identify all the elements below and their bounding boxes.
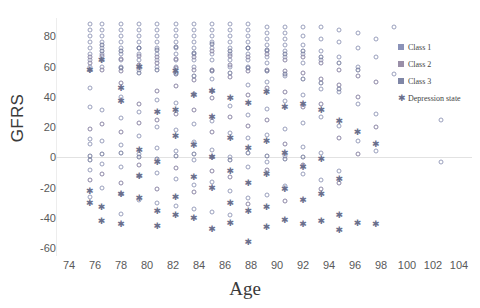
data-point-circle bbox=[337, 28, 342, 33]
legend-item[interactable]: Class 3 bbox=[398, 75, 480, 87]
data-point-star: ✱ bbox=[244, 144, 253, 153]
data-point-circle bbox=[173, 84, 178, 89]
legend-item[interactable]: Class 1 bbox=[398, 41, 480, 53]
data-point-circle bbox=[210, 96, 215, 101]
data-point-circle bbox=[87, 46, 92, 51]
data-point-star: ✱ bbox=[317, 217, 326, 226]
data-point-circle bbox=[264, 193, 269, 198]
data-point-circle bbox=[137, 34, 142, 39]
data-point-circle bbox=[373, 79, 378, 84]
data-point-circle bbox=[191, 78, 196, 83]
data-point-circle bbox=[173, 56, 178, 61]
data-point-circle bbox=[99, 152, 104, 157]
scatter-plot-figure: ✱✱✱✱✱✱✱✱✱✱✱✱✱✱✱✱✱✱✱✱✱✱✱✱✱✱✱✱✱✱✱✱✱✱✱✱✱✱✱✱… bbox=[0, 0, 480, 308]
data-point-circle bbox=[392, 72, 397, 77]
data-point-circle bbox=[191, 55, 196, 60]
data-point-star: ✱ bbox=[171, 106, 180, 115]
data-point-circle bbox=[87, 178, 92, 183]
data-point-circle bbox=[282, 58, 287, 63]
data-point-star: ✱ bbox=[280, 215, 289, 224]
data-point-circle bbox=[438, 117, 443, 122]
y-tick-label: -20 bbox=[22, 182, 56, 194]
data-point-circle bbox=[246, 123, 251, 128]
data-point-star: ✱ bbox=[299, 195, 308, 204]
legend-label: Class 2 bbox=[408, 60, 431, 69]
data-point-circle bbox=[438, 160, 443, 165]
data-point-circle bbox=[119, 34, 124, 39]
y-axis-title: GFRS bbox=[8, 78, 28, 158]
data-point-circle bbox=[282, 37, 287, 42]
data-point-star: ✱ bbox=[371, 139, 380, 148]
data-point-circle bbox=[87, 141, 92, 146]
data-point-circle bbox=[337, 61, 342, 66]
legend-item[interactable]: Class 2 bbox=[398, 58, 480, 70]
data-point-circle bbox=[210, 129, 215, 134]
data-point-circle bbox=[137, 134, 142, 139]
data-point-circle bbox=[355, 102, 360, 107]
data-point-circle bbox=[99, 122, 104, 127]
data-point-star: ✱ bbox=[244, 238, 253, 247]
data-point-star: ✱ bbox=[244, 206, 253, 215]
data-point-circle bbox=[355, 152, 360, 157]
data-point-star: ✱ bbox=[317, 106, 326, 115]
data-point-star: ✱ bbox=[189, 141, 198, 150]
data-point-circle bbox=[264, 25, 269, 30]
data-point-circle bbox=[99, 161, 104, 166]
data-point-circle bbox=[99, 138, 104, 143]
y-tick-label: -60 bbox=[22, 242, 56, 254]
data-point-circle bbox=[87, 85, 92, 90]
data-point-circle bbox=[119, 150, 124, 155]
data-point-circle bbox=[191, 28, 196, 33]
legend-label: Depression state bbox=[408, 94, 461, 103]
data-point-circle bbox=[319, 37, 324, 42]
data-point-circle bbox=[301, 43, 306, 48]
legend-star-icon: ✱ bbox=[398, 94, 404, 102]
data-point-circle bbox=[173, 44, 178, 49]
data-point-star: ✱ bbox=[189, 173, 198, 182]
data-point-star: ✱ bbox=[353, 218, 362, 227]
data-point-circle bbox=[99, 28, 104, 33]
data-point-circle bbox=[301, 172, 306, 177]
data-point-star: ✱ bbox=[280, 185, 289, 194]
data-point-circle bbox=[301, 70, 306, 75]
data-point-star: ✱ bbox=[317, 154, 326, 163]
data-point-circle bbox=[264, 61, 269, 66]
data-point-circle bbox=[301, 155, 306, 160]
data-point-star: ✱ bbox=[189, 214, 198, 223]
x-tick-label: 104 bbox=[444, 259, 474, 271]
data-point-star: ✱ bbox=[262, 203, 271, 212]
data-point-circle bbox=[228, 62, 233, 67]
legend: Class 1Class 2Class 3✱Depression state bbox=[398, 41, 480, 109]
legend-item[interactable]: ✱Depression state bbox=[398, 92, 480, 104]
data-point-circle bbox=[191, 122, 196, 127]
data-point-circle bbox=[137, 53, 142, 58]
data-point-circle bbox=[301, 144, 306, 149]
data-point-circle bbox=[137, 163, 142, 168]
data-point-circle bbox=[319, 55, 324, 60]
data-point-circle bbox=[301, 55, 306, 60]
data-point-circle bbox=[355, 31, 360, 36]
data-point-circle bbox=[155, 28, 160, 33]
data-point-circle bbox=[228, 188, 233, 193]
data-point-circle bbox=[228, 49, 233, 54]
data-point-circle bbox=[228, 75, 233, 80]
data-point-circle bbox=[355, 138, 360, 143]
data-point-star: ✱ bbox=[226, 167, 235, 176]
data-point-circle bbox=[155, 22, 160, 27]
data-point-circle bbox=[210, 22, 215, 27]
data-point-circle bbox=[155, 47, 160, 52]
data-point-circle bbox=[228, 70, 233, 75]
data-point-circle bbox=[210, 28, 215, 33]
data-point-star: ✱ bbox=[97, 217, 106, 226]
data-point-star: ✱ bbox=[117, 220, 126, 229]
data-point-circle bbox=[119, 143, 124, 148]
data-point-circle bbox=[191, 22, 196, 27]
data-point-circle bbox=[173, 166, 178, 171]
data-point-circle bbox=[228, 103, 233, 108]
data-point-star: ✱ bbox=[335, 117, 344, 126]
data-point-circle bbox=[282, 126, 287, 131]
data-point-circle bbox=[191, 108, 196, 113]
data-point-circle bbox=[191, 158, 196, 163]
data-point-star: ✱ bbox=[299, 220, 308, 229]
data-point-circle bbox=[99, 49, 104, 54]
